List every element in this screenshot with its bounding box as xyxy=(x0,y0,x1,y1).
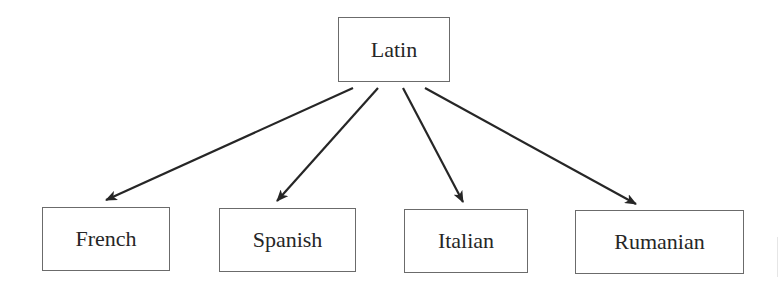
arrow-latin-rumanian xyxy=(425,88,636,204)
node-label-italian: Italian xyxy=(438,228,494,254)
node-french: French xyxy=(42,207,170,271)
node-label-rumanian: Rumanian xyxy=(614,229,704,255)
node-label-latin: Latin xyxy=(371,37,417,63)
node-label-french: French xyxy=(75,226,136,252)
node-latin: Latin xyxy=(338,17,450,82)
node-spanish: Spanish xyxy=(219,208,356,272)
arrow-latin-french xyxy=(106,88,353,200)
scan-artifact-line xyxy=(777,237,778,277)
node-rumanian: Rumanian xyxy=(575,210,744,274)
node-label-spanish: Spanish xyxy=(253,227,323,253)
arrow-latin-spanish xyxy=(277,88,378,201)
node-italian: Italian xyxy=(404,209,528,273)
